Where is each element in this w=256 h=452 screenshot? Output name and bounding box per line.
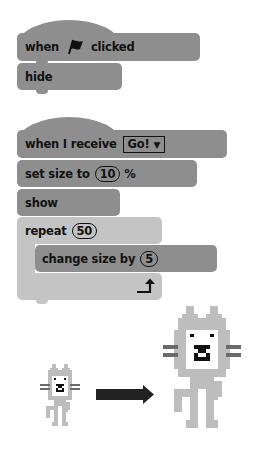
when-flag-clicked-block[interactable]: when clicked bbox=[17, 33, 200, 61]
clicked-label: clicked bbox=[91, 40, 135, 54]
when-label: when bbox=[25, 40, 59, 54]
dropdown-arrow-icon: ▼ bbox=[153, 140, 160, 150]
right-arrow bbox=[96, 385, 156, 405]
change-size-input[interactable]: 5 bbox=[140, 251, 158, 267]
repeat-label: repeat bbox=[25, 224, 67, 238]
when-i-receive-label: when I receive bbox=[25, 137, 117, 151]
big-cat-sprite bbox=[162, 306, 242, 428]
percent-label: % bbox=[124, 167, 135, 181]
message-dropdown[interactable]: Go! ▼ bbox=[123, 136, 166, 153]
green-flag-icon bbox=[67, 39, 85, 55]
change-size-label: change size by bbox=[42, 252, 135, 266]
set-size-label: set size to bbox=[25, 167, 90, 181]
hide-label: hide bbox=[25, 70, 52, 84]
loop-arrow-icon bbox=[136, 278, 158, 294]
repeat-count-input[interactable]: 50 bbox=[72, 223, 98, 239]
when-i-receive-block[interactable]: when I receive Go! ▼ bbox=[17, 130, 227, 158]
show-label: show bbox=[25, 196, 58, 210]
hide-block[interactable]: hide bbox=[17, 63, 122, 90]
set-size-input[interactable]: 10 bbox=[95, 166, 121, 182]
change-size-block[interactable]: change size by 5 bbox=[35, 245, 217, 272]
show-block[interactable]: show bbox=[17, 189, 120, 216]
set-size-block[interactable]: set size to 10 % bbox=[17, 160, 197, 187]
notch bbox=[36, 89, 48, 94]
message-value: Go! bbox=[128, 137, 150, 151]
repeat-block[interactable]: repeat 50 bbox=[17, 217, 162, 244]
small-cat-sprite bbox=[40, 364, 80, 426]
notch bbox=[36, 299, 48, 304]
